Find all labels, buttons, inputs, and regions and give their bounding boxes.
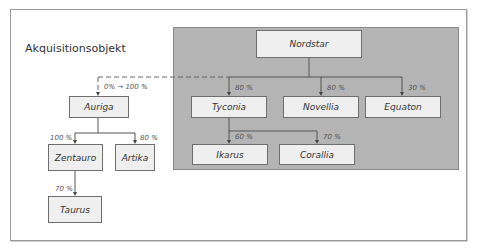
pct-equaton: 30 % (408, 84, 426, 92)
pct-zentauro: 100 % (50, 134, 72, 142)
node-novellia: Novellia (283, 96, 359, 118)
pct-corallia: 70 % (323, 133, 341, 141)
pct-taurus: 70 % (55, 185, 73, 193)
node-ikarus: Ikarus (192, 144, 268, 165)
pct-auriga: 0% → 100 % (104, 83, 148, 91)
pct-artika: 80 % (140, 134, 158, 142)
node-tyconia: Tyconia (191, 96, 267, 118)
node-auriga: Auriga (69, 96, 129, 118)
pct-tyconia: 80 % (235, 84, 253, 92)
node-corallia: Corallia (279, 144, 355, 165)
node-taurus: Taurus (48, 196, 102, 223)
node-artika: Artika (115, 144, 155, 171)
pct-novellia: 80 % (327, 84, 345, 92)
node-nordstar: Nordstar (256, 30, 362, 58)
pct-ikarus: 60 % (235, 133, 253, 141)
node-equaton: Equaton (365, 96, 441, 118)
node-zentauro: Zentauro (48, 144, 103, 171)
